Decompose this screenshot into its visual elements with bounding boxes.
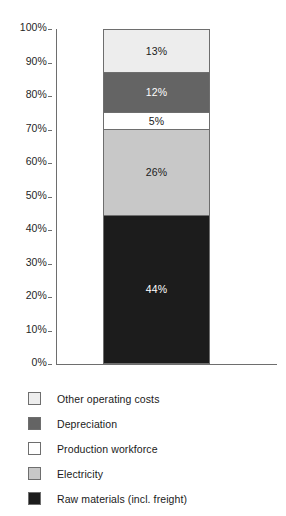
legend-swatch [28, 392, 41, 405]
chart-legend: Other operating costsDepreciationProduct… [0, 386, 286, 511]
legend-item: Depreciation [0, 411, 286, 436]
y-axis-tick-mark [48, 29, 52, 30]
y-axis-tick-label: 50% [26, 190, 47, 201]
x-axis-line [56, 364, 277, 365]
y-axis-tick-mark [48, 230, 52, 231]
legend-item: Electricity [0, 461, 286, 486]
bar-segment-value-label: 26% [146, 167, 167, 178]
legend-swatch [28, 442, 41, 455]
bar-segment: 44% [104, 216, 209, 363]
y-axis-tick-mark [48, 331, 52, 332]
bar-segment: 5% [104, 113, 209, 130]
bar-segment-value-label: 13% [146, 46, 167, 57]
y-axis-tick-mark [48, 96, 52, 97]
y-axis-tick-label: 0% [32, 357, 47, 368]
bar-segment-value-label: 5% [149, 116, 164, 127]
stacked-bar-column: 13%12%5%26%44% [103, 29, 210, 364]
y-axis-tick-mark [48, 297, 52, 298]
y-axis-tick-label: 30% [26, 257, 47, 268]
legend-item-label: Other operating costs [57, 393, 160, 405]
legend-item-label: Depreciation [57, 418, 117, 430]
y-axis-tick-label: 100% [20, 22, 47, 33]
bar-segment: 12% [104, 73, 209, 113]
y-axis-tick-label: 20% [26, 290, 47, 301]
legend-item-label: Raw materials (incl. freight) [57, 493, 187, 505]
legend-item-label: Production workforce [57, 443, 158, 455]
y-axis-tick-label: 90% [26, 56, 47, 67]
bar-segment-value-label: 12% [146, 87, 167, 98]
y-axis-tick-mark [48, 130, 52, 131]
y-axis-tick-mark [48, 197, 52, 198]
y-axis-tick-mark [48, 264, 52, 265]
y-axis-tick-mark [48, 63, 52, 64]
y-axis-tick-label: 80% [26, 89, 47, 100]
bar-segment: 13% [104, 30, 209, 73]
y-axis-tick-label: 60% [26, 156, 47, 167]
legend-swatch [28, 417, 41, 430]
y-axis-tick-label: 40% [26, 223, 47, 234]
legend-item-label: Electricity [57, 468, 103, 480]
legend-item: Production workforce [0, 436, 286, 461]
y-axis-tick-mark [48, 163, 52, 164]
legend-swatch [28, 467, 41, 480]
legend-item: Other operating costs [0, 386, 286, 411]
y-axis-tick-mark [48, 364, 52, 365]
y-axis-line [56, 29, 57, 365]
y-axis-tick-label: 70% [26, 123, 47, 134]
stacked-bar-chart: 100%90%80%70%60%50%40%30%20%10%0% 13%12%… [0, 0, 286, 372]
legend-item: Raw materials (incl. freight) [0, 486, 286, 511]
legend-swatch [28, 492, 41, 505]
bar-segment-value-label: 44% [146, 284, 167, 295]
bar-segment: 26% [104, 130, 209, 217]
y-axis-tick-label: 10% [26, 324, 47, 335]
